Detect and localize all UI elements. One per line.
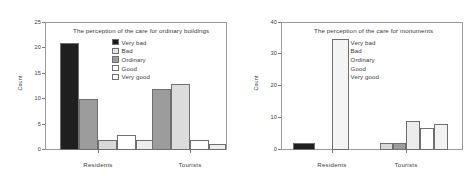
bars-layer-left <box>0 0 236 183</box>
bar-tourists-very-good-right <box>420 128 434 150</box>
bar-tourists-bad-right <box>380 143 393 150</box>
chart-panel-ordinary-buildings: Count 25 20 15 10 5 0 The perception of … <box>0 0 236 183</box>
x-tick-mark-residents-right <box>332 150 333 153</box>
bar-tourists-very-good2-right <box>434 124 448 150</box>
bars-layer-right <box>236 0 473 183</box>
x-tick-mark-residents-left <box>98 150 99 153</box>
bar-tourists-very-good <box>209 144 226 150</box>
x-tick-label-tourists-right: Tourists <box>381 161 431 168</box>
x-tick-label-residents-right: Residents <box>307 161 357 168</box>
bar-tourists-ordinary-right <box>393 143 406 150</box>
bar-residents-very-bad-right <box>293 143 315 150</box>
bar-tourists-good-right <box>406 121 420 150</box>
bar-residents-very-bad <box>60 43 79 150</box>
bar-tourists-ordinary <box>152 89 171 150</box>
x-tick-mark-tourists-right <box>406 150 407 153</box>
x-tick-label-residents-left: Residents <box>73 161 123 168</box>
bar-tourists-good <box>190 140 209 150</box>
bar-residents-good-right <box>332 39 349 150</box>
bar-residents-good <box>117 135 136 150</box>
x-tick-mark-tourists-left <box>190 150 191 153</box>
bar-tourists-bad <box>171 84 190 150</box>
x-tick-label-tourists-left: Tourists <box>165 161 215 168</box>
chart-panel-monuments: Count 40 30 20 10 0 The perception of th… <box>236 0 473 183</box>
figure-two-bar-charts: Count 25 20 15 10 5 0 The perception of … <box>0 0 473 183</box>
bar-residents-ordinary <box>79 99 98 150</box>
bar-residents-bad <box>98 140 117 150</box>
